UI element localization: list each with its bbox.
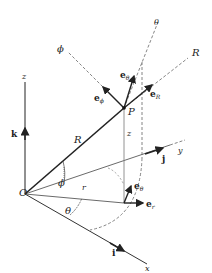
R-direction-label: R: [191, 47, 200, 58]
point-P: [122, 106, 126, 110]
r-line: [25, 194, 124, 203]
e-R-label: eR: [150, 89, 161, 100]
y-axis-label: y: [177, 146, 183, 155]
theta-angle-label: θ: [65, 205, 71, 216]
x-axis: [25, 194, 147, 264]
coordinate-diagram: O P z y x k j i R R θ ϕ z r ϕ θ eθ eR eϕ…: [0, 0, 212, 273]
z-axis-label: z: [21, 72, 27, 81]
e-theta-vector-base: [124, 186, 131, 203]
e-r-label: er: [146, 199, 156, 210]
R-line: [25, 108, 124, 194]
e-phi-vector: [103, 87, 124, 108]
r-label: r: [82, 183, 87, 192]
e-theta-label-base: eθ: [134, 181, 144, 192]
origin-label: O: [19, 187, 27, 198]
e-phi-label: eϕ: [94, 93, 104, 105]
k-label: k: [11, 129, 18, 139]
j-label: j: [161, 154, 165, 164]
point-label: P: [127, 106, 135, 117]
theta-direction-label: θ: [154, 18, 159, 27]
x-axis-label: x: [145, 264, 150, 273]
z-height-label: z: [126, 129, 132, 138]
j-vector: [145, 148, 163, 154]
phi-angle-label: ϕ: [58, 177, 65, 188]
R-line-label: R: [73, 134, 82, 145]
phi-direction-label: ϕ: [57, 43, 64, 54]
i-label: i: [112, 248, 116, 258]
e-theta-label-P: eθ: [120, 70, 130, 81]
